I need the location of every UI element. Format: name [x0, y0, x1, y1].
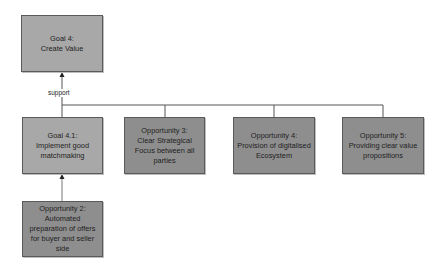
- node-opportunity-4[interactable]: Opportunity 4: Provision of digitalised …: [233, 117, 315, 174]
- node-text-line: propositions: [363, 151, 403, 161]
- node-title: Opportunity 3:: [141, 126, 187, 136]
- node-text-line: preparation of offers: [29, 224, 95, 234]
- node-text-line: for buyer and seller: [31, 234, 94, 244]
- node-opportunity-2[interactable]: Opportunity 2: Automated preparation of …: [22, 201, 103, 257]
- node-text-line: parties: [153, 156, 175, 166]
- node-title: Goal 4.1:: [48, 131, 78, 141]
- node-text-line: Automated: [45, 214, 81, 224]
- node-text-line: matchmaking: [41, 151, 85, 161]
- node-goal-4[interactable]: Goal 4: Create Value: [21, 15, 103, 72]
- support-label: support: [47, 89, 71, 97]
- node-text-line: Providing clear value: [349, 141, 418, 151]
- node-title: Opportunity 2:: [39, 204, 85, 214]
- node-text-line: Implement good: [36, 141, 89, 151]
- node-text-line: Focus between all: [135, 146, 195, 156]
- node-text-line: Clear Strategical: [137, 136, 192, 146]
- node-text-line: Ecosystem: [256, 151, 292, 161]
- node-title: Opportunity 4:: [251, 131, 297, 141]
- node-opportunity-5[interactable]: Opportunity 5: Providing clear value pro…: [342, 117, 424, 174]
- node-text-line: Create Value: [41, 44, 84, 54]
- node-text-line: Provision of digitalised: [237, 141, 311, 151]
- diagram-canvas: support Goal 4: Create Value Goal 4.1: I…: [0, 0, 446, 271]
- arrowhead-icon: [60, 72, 65, 77]
- node-goal-4-1[interactable]: Goal 4.1: Implement good matchmaking: [22, 117, 103, 174]
- node-title: Opportunity 5:: [360, 131, 406, 141]
- node-text-line: side: [56, 244, 70, 254]
- node-title: Goal 4:: [50, 34, 74, 44]
- arrowhead-icon: [60, 174, 65, 179]
- node-opportunity-3[interactable]: Opportunity 3: Clear Strategical Focus b…: [124, 117, 205, 174]
